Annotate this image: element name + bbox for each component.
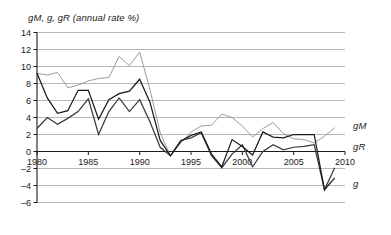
- x-tick-label: 2005: [284, 157, 304, 167]
- y-axis-tick-labels: 14121086420–2–4–6: [21, 28, 31, 208]
- y-tick-label: 12: [21, 45, 31, 55]
- line-chart-plot: 14121086420–2–4–6 1980198519901995200020…: [0, 0, 391, 235]
- series-line-gM: [37, 52, 335, 156]
- x-tick-label: 1995: [181, 157, 201, 167]
- y-tick-label: 6: [26, 96, 31, 106]
- series-paths-group: [37, 52, 335, 190]
- chart-figure: gM, g, gR (annual rate %) 14121086420–2–…: [0, 0, 391, 235]
- x-tick-label: 2010: [335, 157, 355, 167]
- x-tick-label: 1990: [130, 157, 150, 167]
- series-label-gM: gM: [353, 120, 366, 131]
- y-tick-label: –4: [21, 181, 31, 191]
- series-label-gR: gR: [353, 141, 365, 152]
- y-tick-label: 14: [21, 28, 31, 38]
- x-tick-label: 1985: [78, 157, 98, 167]
- x-axis-tick-labels: 1980198519901995200020052010: [27, 157, 355, 167]
- series-label-g: g: [353, 178, 359, 189]
- x-tick-label: 1980: [27, 157, 47, 167]
- y-tick-label: 2: [26, 130, 31, 140]
- y-tick-label: 8: [26, 79, 31, 89]
- series-line-g: [37, 98, 335, 190]
- series-inline-labels: gMgRg: [353, 120, 366, 189]
- y-tick-label: 10: [21, 62, 31, 72]
- gridlines-group: [37, 33, 345, 203]
- y-tick-label: 0: [26, 147, 31, 157]
- y-tick-label: –6: [21, 198, 31, 208]
- series-line-gR: [37, 73, 335, 189]
- x-tick-label: 2000: [232, 157, 252, 167]
- y-tick-label: 4: [26, 113, 31, 123]
